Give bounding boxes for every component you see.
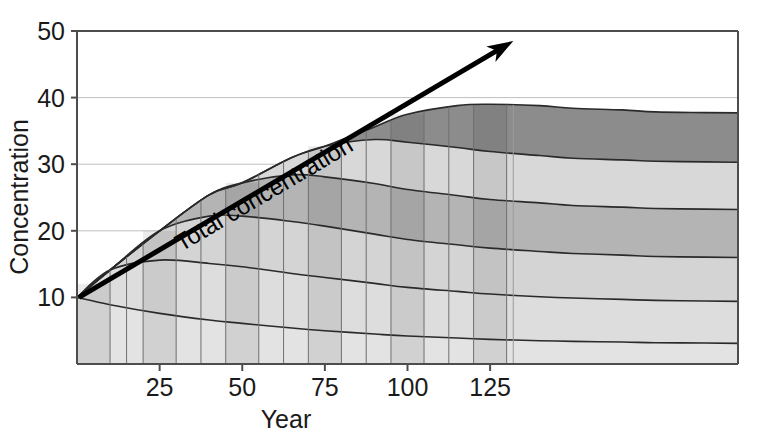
x-axis-title: Year <box>261 405 312 433</box>
stacked-area-chart: Total concentration 1020304050 255075100… <box>0 0 759 438</box>
x-tick-label: 75 <box>311 373 339 401</box>
y-tick-label: 10 <box>37 283 65 311</box>
x-tick-label: 50 <box>228 373 256 401</box>
y-tick-label: 50 <box>37 17 65 45</box>
y-tick-label: 20 <box>37 217 65 245</box>
y-tick-label: 30 <box>37 150 65 178</box>
y-axis-title: Concentration <box>5 119 33 275</box>
x-tick-label: 125 <box>469 373 511 401</box>
y-tick-label: 40 <box>37 84 65 112</box>
chart-container: Total concentration 1020304050 255075100… <box>0 0 759 438</box>
x-tick-label: 25 <box>146 373 174 401</box>
x-tick-label: 100 <box>387 373 429 401</box>
bar-stripe <box>474 104 507 364</box>
